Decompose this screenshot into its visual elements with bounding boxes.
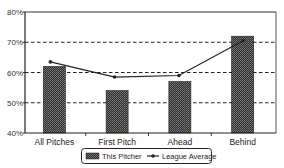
league-average-marker xyxy=(49,60,53,64)
legend-label-league-average: League Average xyxy=(162,152,217,161)
y-tick-label: 70% xyxy=(7,38,23,47)
legend: This PitcherLeague Average xyxy=(82,149,217,164)
league-average-marker xyxy=(241,39,245,43)
chart: 40%50%60%70%80% All PitchesFirst PitchAh… xyxy=(0,0,284,168)
bar-this-pitcher xyxy=(43,66,65,133)
y-tick-label: 50% xyxy=(7,99,23,108)
league-average-marker xyxy=(177,74,181,78)
league-average-polyline xyxy=(50,41,243,77)
legend-label-this-pitcher: This Pitcher xyxy=(102,152,142,161)
x-category-label: Ahead xyxy=(168,137,193,147)
legend-marker-icon xyxy=(151,154,155,158)
x-axis-labels: All PitchesFirst PitchAheadBehind xyxy=(35,137,257,147)
y-tick-label: 60% xyxy=(7,69,23,78)
y-tick-label: 80% xyxy=(7,8,23,17)
x-category-label: First Pitch xyxy=(98,137,136,147)
x-category-label: Behind xyxy=(229,137,256,147)
bar-this-pitcher xyxy=(169,82,191,133)
bars xyxy=(43,36,253,133)
y-tick-label: 40% xyxy=(7,129,23,138)
league-average-marker xyxy=(113,75,117,79)
bar-this-pitcher xyxy=(106,91,128,133)
bar-this-pitcher xyxy=(232,36,254,133)
y-axis-ticks: 40%50%60%70%80% xyxy=(7,8,25,138)
x-category-label: All Pitches xyxy=(35,137,75,147)
legend-swatch-bar-icon xyxy=(86,153,99,159)
